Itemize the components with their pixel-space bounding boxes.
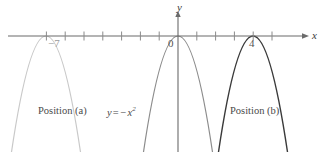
x-axis-arrow xyxy=(302,33,309,39)
equation-exponent: 2 xyxy=(132,105,136,113)
tick-label-neg-seven: −7 xyxy=(48,38,60,49)
caption-position-a: Position (a) xyxy=(38,106,87,117)
tick-label-zero: 0 xyxy=(168,38,174,49)
curve-position-b xyxy=(219,36,288,152)
equation-operator: = xyxy=(112,107,120,118)
curve-position-a xyxy=(12,36,81,152)
equation-base-parabola: y=−x2 xyxy=(107,106,136,118)
parabola-translation-figure: y x −7 0 4 Position (a) Position (b) y=−… xyxy=(0,0,325,152)
caption-position-b: Position (b) xyxy=(230,106,279,117)
equation-lhs: y xyxy=(107,107,112,118)
x-axis-label: x xyxy=(312,30,317,41)
tick-label-four: 4 xyxy=(249,38,255,49)
plot-canvas xyxy=(0,0,325,152)
equation-sign: − xyxy=(120,107,128,118)
y-axis-label: y xyxy=(177,2,182,13)
